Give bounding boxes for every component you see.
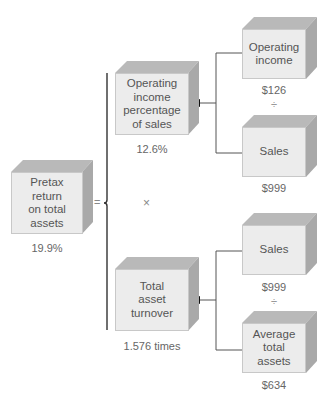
box-text-line: income [249,54,300,68]
divide-sign: ÷ [242,295,306,307]
box-front: Operating income [242,29,306,79]
box-text-line: Total [131,280,173,294]
box-front: Total asset turnover [115,269,189,331]
box-text-line: of sales [123,118,181,132]
multiply-sign: × [143,196,150,210]
box-text-line: turnover [131,307,173,321]
box-text-line: Operating [123,77,181,91]
box-text-line: asset [131,293,173,307]
divide-sign: ÷ [242,98,306,110]
box-front: Operating income percentage of sales [115,73,189,135]
box-front: Sales [242,225,306,275]
box-text-line: Operating [249,41,300,55]
box-front: Sales [242,127,306,177]
factor-2-value: 1.576 times [108,340,196,352]
box-text-line: percentage [123,104,181,118]
box-text-line: return [28,190,66,204]
box-text-line: Sales [260,243,289,257]
box-text-line: total [253,341,296,355]
sales-value-top: $999 [242,182,306,194]
operating-income-value: $126 [242,84,306,96]
box-text-line: on total [28,203,66,217]
bracket [104,73,107,330]
average-total-assets-value: $634 [242,379,306,391]
box-text-line: income [123,91,181,105]
box-text-line: assets [28,217,66,231]
equals-sign: = [94,196,100,208]
box-text-line: assets [253,355,296,369]
box-text-line: Average [253,328,296,342]
sales-value-bottom: $999 [242,281,306,293]
box-front: Pretax return on total assets [11,172,83,234]
box-front: Average total assets [242,323,306,373]
factor-1-value: 12.6% [115,143,189,155]
connector-bottom [198,251,242,350]
connector-top [198,53,242,153]
result-value: 19.9% [11,242,83,254]
box-text-line: Pretax [28,176,66,190]
box-text-line: Sales [260,145,289,159]
